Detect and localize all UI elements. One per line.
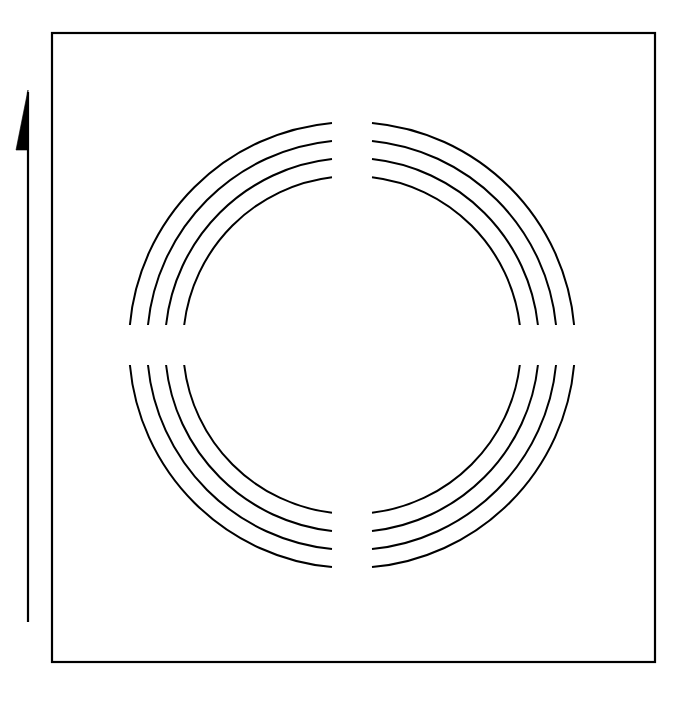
concentric-ring-group — [130, 123, 574, 567]
arrow-head-icon — [16, 90, 28, 150]
ring-outer-1-arc-bottom-right — [372, 365, 574, 567]
ring-2-arc-bottom-left — [148, 365, 332, 549]
ring-3-arc-bottom-left — [166, 365, 332, 531]
ring-2-arc-bottom-right — [372, 365, 556, 549]
ring-outer-1-arc-top-right — [372, 123, 574, 325]
ring-2-arc-top-right — [372, 141, 556, 325]
ring-outer-1-arc-top-left — [130, 123, 332, 325]
vertical-direction-arrow — [16, 90, 28, 622]
ring-3-arc-top-left — [166, 159, 332, 325]
figure-root — [0, 0, 691, 702]
ring-3-arc-bottom-right — [372, 365, 538, 531]
ring-2-arc-top-left — [148, 141, 332, 325]
ring-outer-1-arc-bottom-left — [130, 365, 332, 567]
figure-canvas — [0, 0, 691, 702]
ring-3-arc-top-right — [372, 159, 538, 325]
outer-border-rectangle — [52, 33, 655, 662]
